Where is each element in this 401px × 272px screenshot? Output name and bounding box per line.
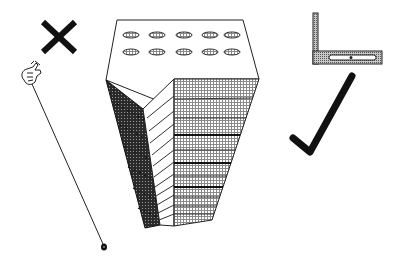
illustration-canvas — [0, 0, 401, 272]
hand-icon — [22, 61, 41, 84]
plumb-bob-icon — [32, 84, 107, 251]
skyscraper-illustration — [106, 20, 259, 228]
check-mark-icon — [293, 76, 352, 152]
gray-right-face — [174, 79, 259, 226]
carpenter-square-icon — [313, 13, 382, 64]
x-mark-icon — [43, 22, 75, 52]
